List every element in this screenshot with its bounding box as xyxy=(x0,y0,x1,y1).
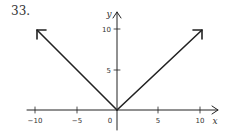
y-tick-label: 10 xyxy=(102,26,111,34)
x-axis-label: x xyxy=(212,116,217,126)
x-tick-label: 0 xyxy=(108,117,112,125)
x-tick-label: 10 xyxy=(196,117,205,125)
x-tick-label: −10 xyxy=(28,117,43,125)
left-branch-line xyxy=(37,30,117,110)
y-tick-label: 5 xyxy=(107,67,111,75)
x-tick-label: 5 xyxy=(156,117,160,125)
graph: −10 −5 0 5 10 5 10 x y xyxy=(0,0,233,139)
x-tick-label: −5 xyxy=(72,117,82,125)
y-axis-label: y xyxy=(105,9,112,19)
right-branch-line xyxy=(117,30,202,110)
